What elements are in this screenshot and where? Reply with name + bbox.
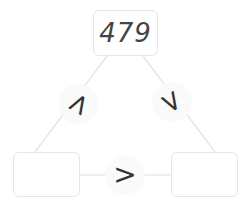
right-comparison: > — [152, 82, 192, 122]
greater-than-icon: > — [61, 87, 97, 121]
greater-than-icon: > — [154, 85, 190, 119]
bottom-right-input-box[interactable] — [171, 152, 238, 197]
left-comparison: > — [59, 84, 99, 124]
greater-than-icon: > — [113, 161, 136, 189]
bottom-comparison: > — [105, 155, 145, 195]
bottom-left-input-box[interactable] — [13, 152, 80, 197]
top-number: 479 — [99, 18, 152, 48]
top-number-box: 479 — [93, 10, 158, 56]
